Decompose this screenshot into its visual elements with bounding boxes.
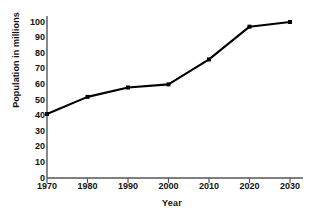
data-point-marker [248,25,252,29]
line-chart: Population in millions 01020304050607080… [0,0,313,218]
data-line-series [47,22,290,114]
data-point-marker [207,57,211,61]
data-point-marker [86,95,90,99]
x-axis-tick-marks [47,178,290,183]
x-axis-title: Year [47,198,297,208]
data-point-marker [288,20,292,24]
data-point-markers [45,20,292,116]
data-point-marker [126,86,130,90]
data-point-marker [167,82,171,86]
data-point-marker [45,112,49,116]
plot-area [0,0,313,218]
